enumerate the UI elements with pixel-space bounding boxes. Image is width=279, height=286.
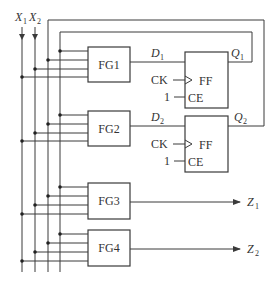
svg-text:D: D: [150, 110, 160, 124]
svg-text:1: 1: [160, 53, 164, 62]
svg-text:CE: CE: [188, 155, 203, 169]
input-x2-label: X 2: [28, 10, 41, 26]
ff1-clock-label: CK: [151, 73, 168, 87]
d1-label: D 1: [150, 46, 164, 62]
ff2-block: FF CE: [185, 116, 228, 172]
svg-text:FG4: FG4: [98, 241, 119, 255]
svg-text:FG3: FG3: [98, 194, 119, 208]
ff2-clock-label: CK: [151, 137, 168, 151]
x2-arrow-icon: [32, 34, 38, 40]
z1-label: Z 1: [247, 195, 259, 211]
input-x1-label: X 1: [14, 10, 27, 26]
svg-text:X: X: [14, 10, 23, 24]
svg-text:Q: Q: [234, 110, 243, 124]
circuit-diagram: X 1 X 2 FG1 D 1 FF CE CK 1 Q 1: [0, 0, 279, 286]
svg-text:FG2: FG2: [98, 122, 119, 136]
fg3-block: FG3: [88, 183, 130, 219]
svg-text:2: 2: [255, 249, 259, 258]
svg-text:2: 2: [37, 17, 41, 26]
fg2-block: FG2: [88, 111, 130, 146]
svg-text:FF: FF: [199, 74, 213, 88]
svg-text:Z: Z: [247, 195, 254, 209]
ff1-block: FF CE: [185, 52, 228, 108]
fg1-block: FG1: [88, 47, 130, 82]
svg-text:X: X: [28, 10, 37, 24]
svg-text:CE: CE: [188, 91, 203, 105]
svg-text:2: 2: [160, 117, 164, 126]
ff2-enable-value: 1: [164, 154, 170, 168]
ff1-enable-value: 1: [164, 90, 170, 104]
svg-text:FF: FF: [199, 138, 213, 152]
q1-label: Q 1: [231, 46, 244, 62]
svg-text:D: D: [150, 46, 160, 60]
z2-label: Z 2: [247, 242, 259, 258]
svg-text:1: 1: [23, 17, 27, 26]
q2-label: Q 2: [234, 110, 247, 126]
svg-text:1: 1: [255, 202, 259, 211]
svg-text:Q: Q: [231, 46, 240, 60]
d2-label: D 2: [150, 110, 164, 126]
svg-text:1: 1: [240, 53, 244, 62]
x1-arrow-icon: [19, 34, 25, 40]
svg-text:FG1: FG1: [98, 58, 119, 72]
svg-text:Z: Z: [247, 242, 254, 256]
svg-text:2: 2: [243, 117, 247, 126]
fg4-block: FG4: [88, 230, 130, 266]
